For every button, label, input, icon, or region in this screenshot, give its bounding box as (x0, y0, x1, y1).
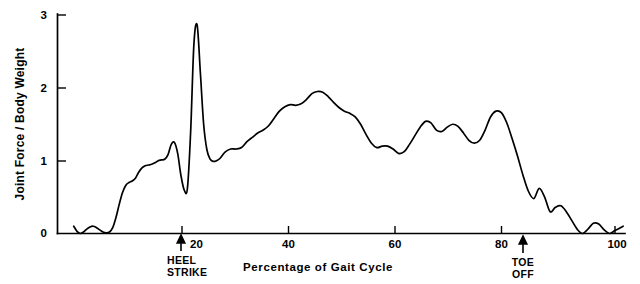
y-tick-label-1: 1 (41, 155, 48, 167)
y-tick-label-0: 0 (41, 227, 47, 239)
chart-figure: 3 2 1 0 20 40 60 80 100 HEEL STRIKE TOE (0, 0, 640, 284)
toe-off-arrow-icon (519, 236, 527, 253)
y-axis-ticks (58, 15, 67, 161)
heel-strike-label-line1: HEEL (167, 254, 196, 266)
x-tick-label-20: 20 (190, 238, 203, 250)
x-axis-title: Percentage of Gait Cycle (243, 261, 393, 273)
x-axis-ticks (182, 226, 615, 234)
y-tick-label-3: 3 (41, 9, 47, 21)
heel-strike-label-line2: STRIKE (167, 266, 207, 278)
heel-strike-arrow-icon (177, 235, 185, 251)
x-tick-label-60: 60 (389, 238, 402, 250)
y-axis-title: Joint Force / Body Weight (13, 48, 27, 201)
x-tick-label-100: 100 (607, 238, 626, 250)
toe-off-label-line2: OFF (512, 268, 534, 280)
y-tick-label-2: 2 (41, 82, 47, 94)
x-tick-label-40: 40 (282, 238, 295, 250)
joint-force-curve (74, 24, 623, 234)
toe-off-label-line1: TOE (512, 256, 534, 268)
x-tick-label-80: 80 (495, 238, 508, 250)
gait-joint-force-chart: 3 2 1 0 20 40 60 80 100 HEEL STRIKE TOE (0, 0, 640, 284)
